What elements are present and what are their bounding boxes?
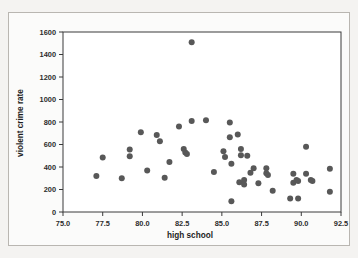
data-point <box>287 196 293 202</box>
x-tick-label: 80.0 <box>135 219 149 228</box>
data-point <box>189 118 195 124</box>
data-point <box>327 166 333 172</box>
data-point <box>228 198 234 204</box>
figure-page: 0200400600800100012001400160075.077.580.… <box>0 0 358 258</box>
y-tick-label: 0 <box>52 208 56 217</box>
y-tick-label: 1400 <box>40 50 56 59</box>
data-point <box>166 159 172 165</box>
data-point <box>119 175 125 181</box>
x-tick-label: 90.0 <box>294 219 308 228</box>
data-point <box>241 181 247 187</box>
data-point <box>270 188 276 194</box>
x-axis-title: high school <box>167 231 213 240</box>
data-point <box>295 178 301 184</box>
y-tick-label: 1000 <box>40 95 56 104</box>
data-point <box>184 151 190 157</box>
data-point <box>255 180 261 186</box>
data-point <box>157 138 163 144</box>
data-point <box>303 144 309 150</box>
data-point <box>295 196 301 202</box>
data-point <box>222 154 228 160</box>
data-point <box>309 178 315 184</box>
x-tick-label: 85.0 <box>215 219 229 228</box>
data-point <box>244 153 250 159</box>
data-point <box>127 153 133 159</box>
y-tick-label: 400 <box>44 163 56 172</box>
x-tick-label: 77.5 <box>96 219 110 228</box>
y-axis-title: violent crime rate <box>16 89 25 157</box>
scatter-plot: 0200400600800100012001400160075.077.580.… <box>9 13 349 245</box>
data-point <box>265 172 271 178</box>
data-point <box>238 152 244 158</box>
data-point <box>144 167 150 173</box>
data-point <box>251 165 257 171</box>
data-point <box>220 148 226 154</box>
x-tick-label: 82.5 <box>175 219 189 228</box>
data-point <box>327 189 333 195</box>
y-tick-label: 800 <box>44 118 56 127</box>
data-point <box>138 129 144 135</box>
data-point <box>290 171 296 177</box>
data-point <box>93 173 99 179</box>
data-point <box>228 161 234 167</box>
data-point <box>127 147 133 153</box>
data-point <box>154 132 160 138</box>
data-point <box>303 171 309 177</box>
x-tick-label: 92.5 <box>334 219 348 228</box>
x-tick-label: 75.0 <box>56 219 70 228</box>
data-point <box>211 169 217 175</box>
data-point <box>238 146 244 152</box>
data-point <box>100 154 106 160</box>
data-point <box>176 124 182 130</box>
chart-frame: 0200400600800100012001400160075.077.580.… <box>8 12 350 246</box>
data-point <box>227 134 233 140</box>
data-point <box>203 117 209 123</box>
x-tick-label: 87.5 <box>254 219 268 228</box>
data-point <box>189 39 195 45</box>
plot-panel <box>63 32 341 212</box>
y-tick-label: 1600 <box>40 28 56 37</box>
data-point <box>235 131 241 137</box>
data-point <box>227 120 233 126</box>
y-tick-label: 200 <box>44 185 56 194</box>
plot-area <box>63 32 341 212</box>
data-point <box>162 175 168 181</box>
y-tick-label: 600 <box>44 140 56 149</box>
y-tick-label: 1200 <box>40 73 56 82</box>
